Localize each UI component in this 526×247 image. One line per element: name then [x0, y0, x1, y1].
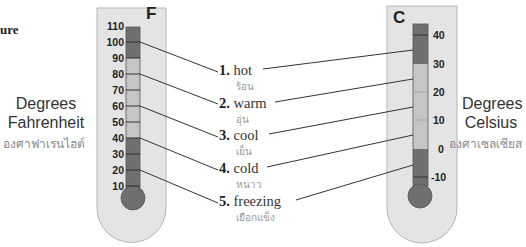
term-english: cool	[234, 127, 259, 143]
f-tick: 70	[102, 84, 124, 96]
celsius-unit-letter: C	[393, 8, 405, 28]
term-number: 4.	[219, 160, 230, 176]
f-tick: 30	[102, 148, 124, 160]
term-thai: หนาว	[236, 177, 262, 192]
term-number: 1.	[219, 62, 230, 78]
f-tick: 100	[102, 36, 124, 48]
c-bulb	[408, 184, 432, 208]
celsius-label-line2: Celsius	[462, 113, 520, 132]
c-tick: 30	[433, 58, 445, 70]
term-thai: เยือกแข็ง	[236, 210, 275, 225]
term-thai: ร้อน	[236, 79, 254, 94]
term-thai: เย็น	[236, 144, 252, 159]
term-item: 5. freezing	[219, 193, 281, 210]
f-tick: 20	[102, 164, 124, 176]
fahrenheit-label: Degrees Fahrenheit	[2, 94, 90, 132]
term-english: hot	[234, 62, 253, 78]
c-tube-cold	[413, 149, 428, 186]
c-tick: 10	[433, 114, 445, 126]
f-tick: 40	[102, 132, 124, 144]
f-tick: 10	[102, 180, 124, 192]
f-tick: 80	[102, 68, 124, 80]
fahrenheit-label-thai: องศาฟาเรนไฮต์	[0, 134, 90, 153]
term-item: 3. cool	[219, 127, 258, 144]
c-tick: 0	[438, 143, 444, 155]
c-tick: -10	[431, 171, 446, 183]
f-tick: 110	[102, 20, 124, 32]
term-number: 5.	[219, 193, 230, 209]
term-english: warm	[234, 95, 267, 111]
partial-heading: ure	[0, 22, 19, 38]
term-thai: อุ่น	[236, 112, 249, 127]
c-tick: 20	[433, 86, 445, 98]
celsius-label-line1: Degrees	[462, 94, 520, 113]
term-item: 1. hot	[219, 62, 252, 79]
f-bulb	[121, 186, 145, 210]
f-tube-mild	[126, 58, 140, 138]
f-tick: 90	[102, 52, 124, 64]
c-tube-hot	[413, 24, 428, 64]
fahrenheit-label-line2: Fahrenheit	[2, 113, 90, 132]
fahrenheit-label-line1: Degrees	[2, 94, 90, 113]
term-english: freezing	[234, 193, 282, 209]
celsius-label: Degrees Celsius	[462, 94, 520, 132]
term-number: 3.	[219, 127, 230, 143]
f-tube-cold	[126, 138, 140, 188]
term-item: 4. cold	[219, 160, 258, 177]
term-english: cold	[234, 160, 259, 176]
f-tick: 50	[102, 116, 124, 128]
fahrenheit-unit-letter: F	[146, 4, 156, 24]
term-number: 2.	[219, 95, 230, 111]
c-tick: 40	[433, 29, 445, 41]
celsius-label-thai: องศาเซลเซียส	[444, 134, 526, 153]
f-tick: 60	[102, 100, 124, 112]
c-tube-mild	[413, 64, 428, 149]
term-item: 2. warm	[219, 95, 267, 112]
connector-lines	[140, 42, 413, 203]
